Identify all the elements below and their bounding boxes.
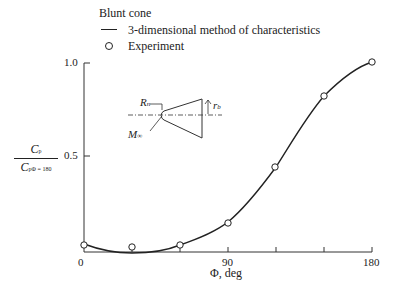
mach-label: M∞ bbox=[128, 128, 142, 140]
mach-text: M bbox=[128, 128, 137, 140]
nose-radius-sub: n bbox=[147, 100, 151, 108]
nose-radius-text: R bbox=[140, 96, 147, 108]
base-radius-label: rb bbox=[213, 99, 221, 111]
mach-sub: ∞ bbox=[137, 132, 142, 140]
nose-radius-label: Rn bbox=[140, 96, 150, 108]
plot-area bbox=[0, 0, 396, 294]
experiment-points bbox=[81, 59, 375, 250]
base-radius-sub: b bbox=[217, 103, 221, 111]
